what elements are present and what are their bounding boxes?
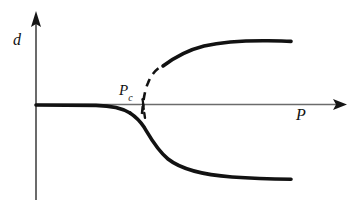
x-axis-label: P bbox=[296, 106, 306, 124]
lower-branch-curve bbox=[130, 113, 291, 179]
trivial-branch-curve bbox=[36, 105, 130, 113]
critical-point-label: Pc bbox=[119, 82, 133, 101]
upper-branch-solid-curve bbox=[163, 41, 291, 66]
upper-branch-dashed-curve bbox=[142, 66, 162, 114]
y-axis-label: d bbox=[13, 31, 21, 49]
critical-point-label-subscript: c bbox=[128, 92, 132, 103]
figure-canvas bbox=[0, 0, 357, 207]
bifurcation-figure: d P Pc bbox=[0, 0, 357, 207]
critical-point-label-base: P bbox=[119, 82, 128, 98]
critical-point-tick bbox=[143, 99, 144, 106]
